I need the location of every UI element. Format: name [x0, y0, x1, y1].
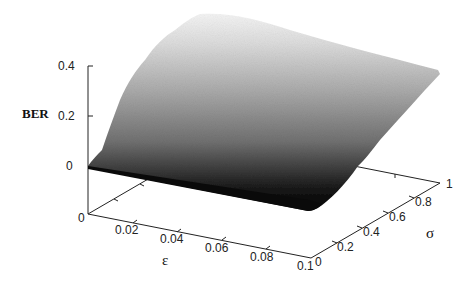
eps-tick-labels: 0 0.02 0.04 0.06 0.08 0.1: [78, 211, 314, 273]
sigma-axis-title: σ: [426, 225, 434, 241]
eps-tick-label: 0.04: [160, 232, 184, 246]
z-tick-label: 0.2: [58, 109, 75, 123]
sigma-tick-label: 0.8: [415, 195, 432, 209]
sigma-tick-label: 1: [446, 177, 453, 191]
eps-tick-label: 0.1: [297, 259, 314, 273]
z-tick-label: 0: [66, 159, 73, 173]
eps-tick-label: 0.06: [205, 241, 229, 255]
sigma-tick-label: 0: [315, 255, 322, 269]
ber-surface: [88, 14, 440, 211]
eps-tick-label: 0.02: [115, 223, 139, 237]
eps-tick-label: 0: [78, 211, 85, 225]
z-tick-labels: 0.4 0.2 0: [58, 59, 75, 173]
sigma-tick-label: 0.2: [337, 240, 354, 254]
z-axis-title: BER: [22, 106, 49, 121]
eps-axis-title: ε: [162, 252, 168, 268]
z-tick-label: 0.4: [58, 59, 75, 73]
sigma-tick-label: 0.6: [389, 210, 406, 224]
eps-tick-label: 0.08: [250, 250, 274, 264]
sigma-tick-label: 0.4: [363, 225, 380, 239]
surface-body: [88, 14, 440, 211]
ber-surface-chart: 0.4 0.2 0 BER 0 0.02 0.04 0.06 0.08 0.1 …: [0, 0, 473, 283]
